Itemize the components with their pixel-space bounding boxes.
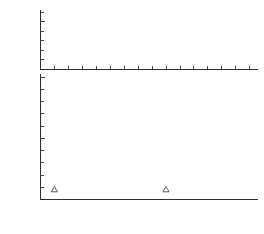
nest-survival-figure bbox=[0, 0, 264, 234]
bottom-panel-y-ticks bbox=[41, 77, 46, 199]
hatch-triangle-icon bbox=[163, 187, 169, 192]
figure-svg bbox=[0, 0, 264, 234]
bottom-panel bbox=[41, 74, 259, 200]
second-egg-triangle-icon bbox=[51, 187, 57, 192]
top-panel-y-ticks bbox=[41, 12, 45, 69]
top-panel-x-ticks bbox=[54, 66, 249, 70]
top-panel bbox=[41, 10, 259, 70]
